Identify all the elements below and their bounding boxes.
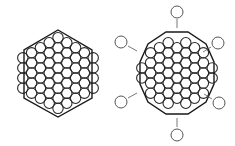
atom-circle: [88, 53, 98, 63]
atom-circle: [88, 83, 98, 93]
detached-atom-lower-left: [115, 96, 127, 108]
atom-circle: [198, 88, 208, 98]
cluster-diagram: [0, 0, 235, 146]
atom-circle: [207, 63, 217, 73]
left-cluster: [18, 30, 99, 117]
detached-atom-upper-right: [212, 37, 224, 49]
detached-atom-lower-right: [213, 97, 225, 109]
atom-circle: [88, 73, 98, 83]
outward-arrow-upper-left: [128, 46, 137, 51]
detached-atom-bottom: [171, 129, 183, 141]
outward-arrow-lower-left: [128, 93, 137, 98]
detached-atom-top: [171, 6, 183, 18]
atom-circle: [88, 63, 98, 73]
detached-atom-upper-left: [115, 36, 127, 48]
diagram-stage: Two close-packed hexagonal atom clusters: [0, 0, 235, 146]
atom-circle: [207, 73, 217, 83]
right-cluster: [115, 6, 225, 141]
